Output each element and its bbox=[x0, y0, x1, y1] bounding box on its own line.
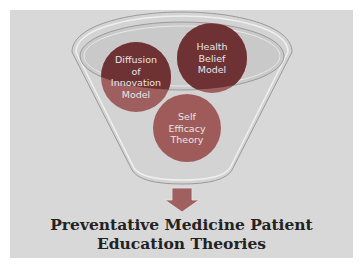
circle-label-self-efficacy: Self Efficacy Theory bbox=[152, 111, 222, 146]
down-arrow-icon bbox=[165, 188, 199, 212]
circle-label-diffusion: Diffusion of Innovation Model bbox=[101, 54, 171, 100]
circle-label-health-belief: Health Belief Model bbox=[177, 41, 247, 76]
diagram-title-line2: Education Theories bbox=[10, 234, 353, 253]
diagram-title-line1: Preventative Medicine Patient bbox=[10, 215, 353, 234]
